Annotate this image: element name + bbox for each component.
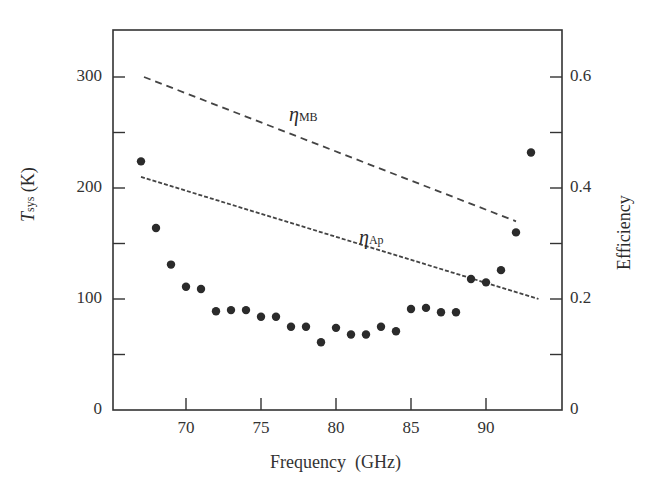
data-point	[302, 323, 310, 331]
data-point	[272, 313, 280, 321]
data-point	[152, 224, 160, 232]
data-point	[437, 308, 445, 316]
x-tick-label: 90	[466, 418, 506, 438]
eta-mb-line	[144, 77, 516, 221]
x-tick-label: 80	[316, 418, 356, 438]
x-tick-label: 70	[166, 418, 206, 438]
y-tick-label-left: 300	[62, 66, 102, 86]
x-tick-label: 75	[241, 418, 281, 438]
data-point	[467, 275, 475, 283]
eta-ap-line	[141, 177, 539, 299]
y-tick-label-right: 0.4	[570, 177, 591, 197]
x-tick-label: 85	[391, 418, 431, 438]
eta-ap-symbol: η	[359, 226, 369, 248]
y-tick-label-right: 0.6	[570, 66, 591, 86]
eta-mb-annotation: ηMB	[289, 103, 318, 126]
data-point	[197, 285, 205, 293]
data-point	[242, 306, 250, 314]
y-axis-label-left: Tsys (K)	[18, 167, 39, 222]
data-point	[287, 323, 295, 331]
data-point	[317, 338, 325, 346]
data-point	[377, 323, 385, 331]
data-point	[167, 260, 175, 268]
y-tick-label-right: 0.2	[570, 288, 591, 308]
data-point	[362, 330, 370, 338]
data-point	[392, 327, 400, 335]
data-point	[422, 304, 430, 312]
data-point	[332, 324, 340, 332]
y-axis-label-right: Efficiency	[614, 195, 635, 270]
data-point	[527, 148, 535, 156]
efficiency-lines	[141, 77, 539, 299]
data-point	[407, 305, 415, 313]
data-point	[137, 157, 145, 165]
data-point	[257, 313, 265, 321]
data-point	[182, 283, 190, 291]
tsys-points	[137, 148, 535, 346]
x-axis-label: Frequency (GHz)	[270, 452, 401, 473]
y-tick-label-right: 0	[570, 399, 579, 419]
y-tick-label-left: 0	[62, 399, 102, 419]
eta-ap-subscript: Ap	[369, 233, 384, 247]
plot-frame	[113, 30, 562, 410]
eta-mb-symbol: η	[289, 103, 299, 125]
y-tick-label-left: 200	[62, 177, 102, 197]
data-point	[512, 228, 520, 236]
ylabel-main: T	[18, 212, 38, 222]
ylabel-sub: sys	[23, 197, 37, 212]
data-point	[497, 266, 505, 274]
y-tick-label-left: 100	[62, 288, 102, 308]
data-point	[212, 307, 220, 315]
axis-ticks	[113, 77, 562, 410]
data-point	[482, 278, 490, 286]
data-point	[347, 330, 355, 338]
eta-ap-annotation: ηAp	[359, 226, 384, 249]
data-point	[227, 306, 235, 314]
data-point	[452, 308, 460, 316]
ylabel-unit: (K)	[18, 167, 38, 197]
eta-mb-subscript: MB	[299, 110, 318, 124]
